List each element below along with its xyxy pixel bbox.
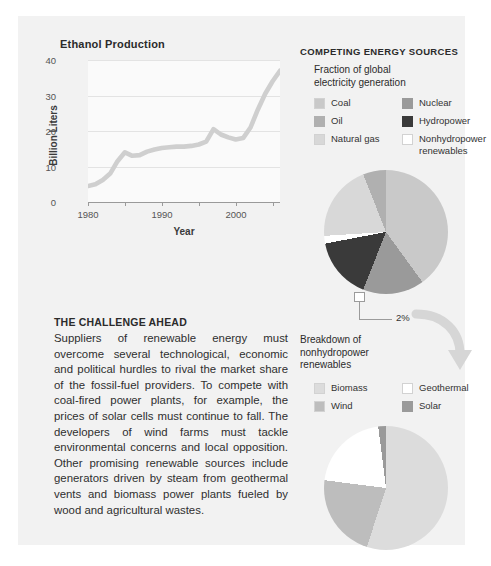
- renewables-pie-subtitle: Breakdown of nonhydropower renewables: [300, 334, 480, 372]
- challenge-ahead-article: THE CHALLENGE AHEAD Suppliers of renewab…: [54, 316, 288, 518]
- callout-leader-line: [359, 302, 360, 319]
- legend-label: Nuclear: [419, 97, 452, 109]
- ethanol-line-series: [88, 60, 280, 202]
- legend-label: Coal: [331, 97, 351, 109]
- legend-label: Geothermal: [419, 382, 469, 394]
- x-tick: [199, 202, 200, 206]
- legend-label: Biomass: [331, 382, 367, 394]
- callout-leader-line: [359, 319, 392, 320]
- plot-area: [88, 60, 280, 202]
- color-swatch-icon: [314, 98, 325, 109]
- color-swatch-icon: [314, 383, 325, 394]
- color-swatch-icon: [314, 401, 325, 412]
- x-tick: [236, 202, 237, 206]
- legend-item-natural-gas: Natural gas: [314, 133, 402, 156]
- x-tick: [125, 202, 126, 206]
- energy-legend: Coal Nuclear Oil Hydropower Natural gas …: [314, 97, 480, 156]
- color-swatch-icon: [402, 401, 413, 412]
- y-tick-label: 30: [16, 90, 56, 101]
- color-swatch-icon: [402, 383, 413, 394]
- legend-label: Nonhydropower renewables: [419, 133, 486, 156]
- ethanol-production-chart: Ethanol Production Billion Liters 40 30: [36, 38, 294, 258]
- color-swatch-icon: [314, 134, 325, 145]
- color-swatch-icon: [402, 134, 413, 145]
- renewables-pie-chart: [324, 426, 448, 550]
- article-body-text: Suppliers of renewable energy must overc…: [54, 331, 288, 518]
- section-heading: COMPETING ENERGY SOURCES: [300, 46, 480, 57]
- color-swatch-icon: [402, 116, 413, 127]
- renewables-legend: Biomass Geothermal Wind Solar: [314, 382, 480, 412]
- renewables-breakdown-section: Breakdown of nonhydropower renewables Bi…: [300, 334, 480, 550]
- legend-label: Solar: [419, 400, 441, 412]
- y-tick-label: 0: [16, 197, 56, 208]
- article-heading: THE CHALLENGE AHEAD: [54, 316, 288, 328]
- legend-item-hydropower: Hydropower: [402, 115, 491, 127]
- y-tick-label: 10: [16, 161, 56, 172]
- x-tick-label: 2000: [225, 209, 246, 220]
- competing-energy-sources-section: COMPETING ENERGY SOURCES Fraction of glo…: [300, 46, 480, 294]
- x-tick: [162, 202, 163, 206]
- callout-marker-box: [354, 292, 365, 302]
- legend-item-geothermal: Geothermal: [402, 382, 491, 394]
- energy-pie-subtitle: Fraction of global electricity generatio…: [314, 64, 480, 89]
- legend-item-biomass: Biomass: [314, 382, 402, 394]
- legend-item-coal: Coal: [314, 97, 402, 109]
- callout-percent-label: 2%: [396, 312, 410, 323]
- legend-item-nonhydropower-renewables: Nonhydropower renewables: [402, 133, 491, 156]
- x-tick: [88, 202, 89, 206]
- legend-label: Natural gas: [331, 133, 380, 145]
- legend-item-wind: Wind: [314, 400, 402, 412]
- y-tick-label: 40: [16, 55, 56, 66]
- color-swatch-icon: [402, 98, 413, 109]
- legend-item-oil: Oil: [314, 115, 402, 127]
- plot-wrapper: Billion Liters 40 30 20 10 0 1: [36, 52, 294, 248]
- legend-label: Oil: [331, 115, 343, 127]
- x-tick-label: 1980: [77, 209, 98, 220]
- energy-sources-pie-chart: [324, 170, 448, 294]
- legend-label: Hydropower: [419, 115, 470, 127]
- legend-label: Wind: [331, 400, 353, 412]
- legend-item-solar: Solar: [402, 400, 491, 412]
- legend-item-nuclear: Nuclear: [402, 97, 491, 109]
- x-axis: [88, 202, 280, 203]
- y-tick-label: 20: [16, 126, 56, 137]
- x-axis-label: Year: [88, 226, 280, 237]
- color-swatch-icon: [314, 116, 325, 127]
- x-tick-label: 1990: [151, 209, 172, 220]
- x-tick: [273, 202, 274, 206]
- infographic-panel: Ethanol Production Billion Liters 40 30: [18, 16, 465, 545]
- chart-title: Ethanol Production: [60, 38, 294, 50]
